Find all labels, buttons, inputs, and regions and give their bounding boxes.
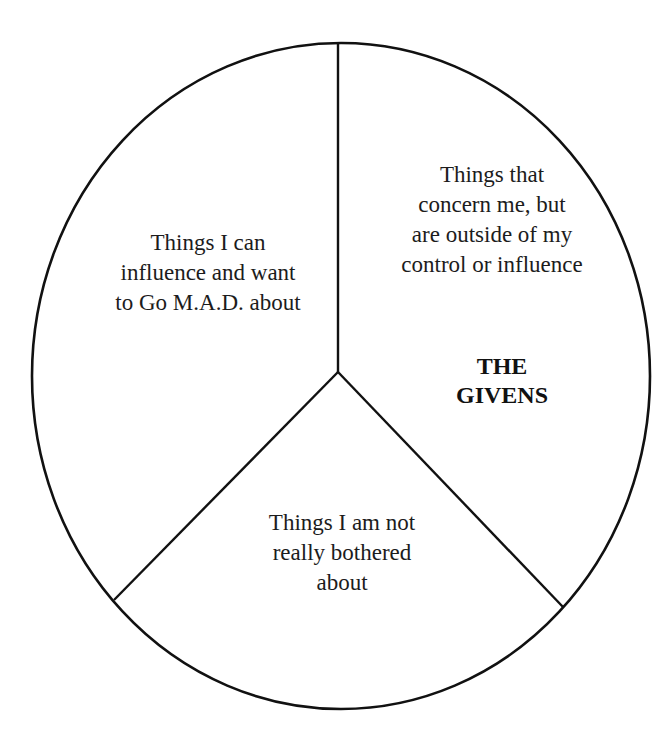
segment-right-line-2: concern me, but <box>356 190 628 220</box>
segment-left-line-1: Things I can <box>88 228 328 258</box>
segment-left-line-3: to Go M.A.D. about <box>88 288 328 318</box>
segment-right-line-4: control or influence <box>356 250 628 280</box>
segment-bottom-label: Things I am not really bothered about <box>222 508 462 598</box>
segment-bottom-line-2: really bothered <box>222 538 462 568</box>
segment-right-line-3: are outside of my <box>356 220 628 250</box>
the-givens-line-2: GIVENS <box>412 381 592 410</box>
the-givens-line-1: THE <box>412 352 592 381</box>
the-givens-heading: THE GIVENS <box>412 352 592 410</box>
segment-right-label: Things that concern me, but are outside … <box>356 160 628 280</box>
segment-right-line-1: Things that <box>356 160 628 190</box>
segment-left-line-2: influence and want <box>88 258 328 288</box>
segment-bottom-line-1: Things I am not <box>222 508 462 538</box>
segment-left-label: Things I can influence and want to Go M.… <box>88 228 328 318</box>
segment-bottom-line-3: about <box>222 568 462 598</box>
